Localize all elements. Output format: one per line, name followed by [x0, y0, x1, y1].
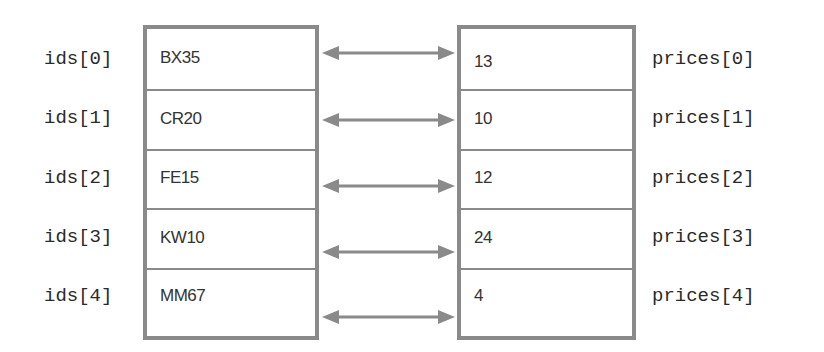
double-arrow-icon-0: [322, 46, 455, 60]
double-arrow-icon-3: [322, 245, 455, 259]
double-arrow-icon-2: [322, 179, 455, 193]
double-arrow-icon-1: [322, 113, 455, 127]
connector-arrows: [0, 0, 824, 352]
double-arrow-icon-4: [322, 310, 455, 324]
